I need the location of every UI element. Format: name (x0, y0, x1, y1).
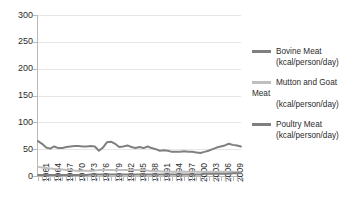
x-tick-mark (95, 177, 96, 181)
x-tick-mark (79, 177, 80, 181)
legend-label-line-1: Poultry Meat (276, 119, 360, 130)
x-tick-mark (241, 177, 242, 181)
x-tick-mark (180, 177, 181, 181)
x-tick-mark (160, 177, 161, 181)
x-tick-mark (192, 177, 193, 181)
legend-swatch-mutton-and-goat-meat (252, 81, 271, 84)
y-tick-mark (33, 122, 37, 123)
y-tick-mark (33, 15, 37, 16)
legend-entry-mutton-and-goat-meat[interactable]: Mutton and Goat Meat (kcal/person/day) (252, 77, 360, 110)
x-tick-mark (172, 177, 173, 181)
x-tick-mark (87, 177, 88, 181)
x-tick-mark (237, 177, 238, 181)
x-tick-mark (54, 177, 55, 181)
legend-label-line-2: Meat (252, 88, 360, 99)
x-tick-mark (204, 177, 205, 181)
x-tick-mark (164, 177, 165, 181)
x-tick-mark (233, 177, 234, 181)
x-tick-mark (66, 177, 67, 181)
x-tick-mark (75, 177, 76, 181)
legend-entry-bovine-meat[interactable]: Bovine Meat (kcal/person/day) (252, 46, 360, 68)
x-tick-mark (50, 177, 51, 181)
x-tick-mark (131, 177, 132, 181)
series-line (38, 173, 241, 175)
x-tick-mark (229, 177, 230, 181)
y-tick-mark (33, 149, 37, 150)
legend-label-bovine-meat: Bovine Meat (kcal/person/day) (276, 46, 360, 68)
x-tick-mark (91, 177, 92, 181)
x-tick-mark (168, 177, 169, 181)
legend-label-line-3: (kcal/person/day) (276, 99, 360, 110)
y-tick-mark (33, 42, 37, 43)
chart-legend: Bovine Meat (kcal/person/day) Mutton and… (252, 46, 360, 150)
x-tick-mark (200, 177, 201, 181)
x-tick-mark (123, 177, 124, 181)
x-tick-mark (152, 177, 153, 181)
x-tick-mark (99, 177, 100, 181)
x-tick-mark (188, 177, 189, 181)
legend-label-mutton-and-goat-meat: Mutton and Goat Meat (kcal/person/day) (276, 77, 360, 110)
x-tick-mark (209, 177, 210, 181)
x-tick-mark (38, 177, 39, 181)
x-tick-mark (127, 177, 128, 181)
x-tick-mark (144, 177, 145, 181)
series-line (38, 141, 241, 153)
legend-label-line-1: Bovine Meat (276, 46, 360, 57)
x-tick-mark (115, 177, 116, 181)
y-tick-mark (33, 69, 37, 70)
legend-swatch-poultry-meat (252, 123, 271, 126)
x-tick-mark (46, 177, 47, 181)
x-tick-mark (184, 177, 185, 181)
legend-label-line-1: Mutton and Goat (276, 77, 360, 88)
series-line (38, 167, 241, 172)
line-chart: 050100150200250300 196119641967197019731… (0, 0, 360, 223)
x-tick-mark (213, 177, 214, 181)
x-tick-mark (62, 177, 63, 181)
x-tick-mark (140, 177, 141, 181)
y-tick-mark (33, 96, 37, 97)
x-tick-mark (70, 177, 71, 181)
x-tick-mark (221, 177, 222, 181)
legend-entry-poultry-meat[interactable]: Poultry Meat (kcal/person/day) (252, 119, 360, 141)
x-tick-mark (58, 177, 59, 181)
x-tick-mark (176, 177, 177, 181)
x-tick-mark (148, 177, 149, 181)
x-tick-mark (42, 177, 43, 181)
x-tick-mark (83, 177, 84, 181)
legend-label-line-2: (kcal/person/day) (276, 57, 360, 68)
x-tick-mark (111, 177, 112, 181)
x-tick-mark (196, 177, 197, 181)
x-tick-mark (156, 177, 157, 181)
x-tick-mark (103, 177, 104, 181)
legend-label-poultry-meat: Poultry Meat (kcal/person/day) (276, 119, 360, 141)
legend-swatch-bovine-meat (252, 50, 271, 53)
x-tick-mark (135, 177, 136, 181)
y-tick-mark (33, 176, 37, 177)
x-tick-mark (225, 177, 226, 181)
x-tick-mark (217, 177, 218, 181)
x-tick-mark (119, 177, 120, 181)
x-tick-mark (107, 177, 108, 181)
legend-label-line-2: (kcal/person/day) (276, 130, 360, 141)
